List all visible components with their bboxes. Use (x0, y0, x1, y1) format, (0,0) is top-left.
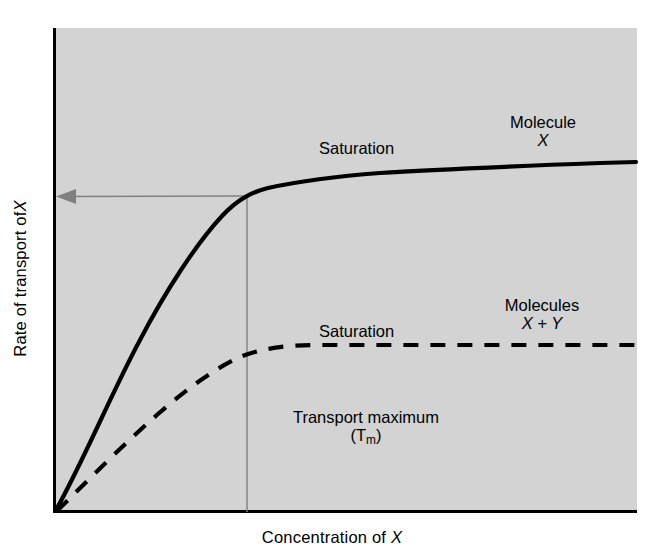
series-label-molecules-xy-line1: Molecules (489, 296, 595, 314)
tm-arrow-shaft (70, 196, 247, 197)
saturation-label-top: Saturation (319, 139, 394, 157)
annotation-transport-maximum: Transport maximum (Tm) (280, 408, 452, 447)
annotation-transport-maximum-line1: Transport maximum (280, 408, 452, 426)
y-axis-label-plain: Rate of transport of (11, 211, 29, 356)
series-label-molecule-x-line2: X (497, 131, 589, 149)
series-label-molecules-xy: Molecules X + Y (489, 296, 595, 333)
chart-canvas (0, 0, 664, 557)
y-axis-label-italic: X (11, 200, 29, 211)
x-axis-label: Concentration of X (0, 528, 664, 546)
y-axis-label: Rate of transport of X (0, 0, 40, 557)
x-axis-label-plain: Concentration of (262, 528, 391, 546)
tm-paren-close: ) (376, 426, 382, 444)
saturation-label-bottom: Saturation (319, 322, 394, 340)
annotation-transport-maximum-line2: (Tm) (280, 426, 452, 447)
tm-paren-open: (T (351, 426, 367, 444)
tm-subscript: m (366, 433, 376, 447)
x-axis-label-italic: X (391, 528, 402, 546)
figure-container: Rate of transport of X Concentration of … (0, 0, 664, 557)
series-label-molecules-xy-line2: X + Y (489, 314, 595, 332)
series-label-molecule-x: Molecule X (497, 113, 589, 150)
series-label-molecule-x-line1: Molecule (497, 113, 589, 131)
